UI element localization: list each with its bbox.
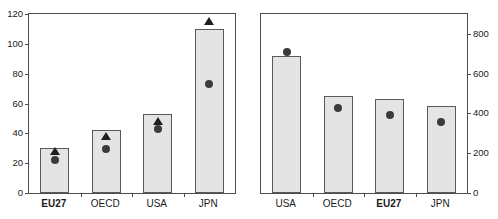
x-axis-category-label: USA bbox=[146, 198, 167, 209]
x-axis-category-label: USA bbox=[275, 198, 296, 209]
y-axis-tick-label: 60 bbox=[12, 99, 23, 109]
x-axis-category-label: OECD bbox=[91, 198, 120, 209]
circle-marker bbox=[437, 118, 445, 126]
y-axis-tick bbox=[467, 153, 471, 154]
bar bbox=[272, 56, 301, 193]
y-axis-tick-label: 0 bbox=[473, 188, 478, 198]
x-axis-tick bbox=[364, 193, 365, 197]
y-axis-tick-label: 40 bbox=[12, 129, 23, 139]
y-axis-tick-label: 800 bbox=[473, 29, 489, 39]
circle-marker bbox=[154, 125, 162, 133]
figure: Triadic patents Per million population 2… bbox=[0, 0, 498, 219]
y-axis-tick bbox=[25, 14, 29, 15]
y-axis-tick bbox=[25, 163, 29, 164]
circle-marker bbox=[386, 111, 394, 119]
chart-panel-scientific-articles: Scientific articles Per million populati… bbox=[249, 0, 498, 219]
y-axis-tick bbox=[25, 44, 29, 45]
y-axis-tick bbox=[467, 113, 471, 114]
x-axis-tick bbox=[416, 193, 417, 197]
plot-area-right: 0200400600800 bbox=[260, 13, 468, 194]
bar bbox=[195, 29, 224, 193]
x-axis-tick bbox=[184, 193, 185, 197]
circle-marker bbox=[283, 48, 291, 56]
circle-marker bbox=[102, 145, 110, 153]
y-axis-tick-label: 20 bbox=[12, 158, 23, 168]
plot-area-left: 020406080100120 bbox=[28, 13, 236, 194]
triangle-marker bbox=[101, 132, 111, 140]
triangle-marker bbox=[153, 117, 163, 125]
y-axis-tick bbox=[467, 74, 471, 75]
y-axis-tick bbox=[25, 133, 29, 134]
x-axis-category-label: EU27 bbox=[41, 198, 66, 209]
x-axis-category-label: JPN bbox=[199, 198, 218, 209]
y-axis-tick bbox=[25, 74, 29, 75]
y-axis-tick bbox=[25, 193, 29, 194]
circle-marker bbox=[51, 156, 59, 164]
x-axis-category-label: EU27 bbox=[376, 198, 401, 209]
y-axis-tick bbox=[25, 104, 29, 105]
y-axis-tick-label: 100 bbox=[7, 39, 23, 49]
x-axis-category-label: JPN bbox=[431, 198, 450, 209]
y-axis-tick-label: 400 bbox=[473, 109, 489, 119]
triangle-marker bbox=[204, 17, 214, 25]
y-axis-tick bbox=[467, 193, 471, 194]
x-axis-tick bbox=[313, 193, 314, 197]
circle-marker bbox=[334, 104, 342, 112]
y-axis-tick-label: 200 bbox=[473, 148, 489, 158]
x-axis-tick bbox=[132, 193, 133, 197]
y-axis-tick bbox=[467, 34, 471, 35]
x-axis-tick bbox=[81, 193, 82, 197]
y-axis-tick-label: 80 bbox=[12, 69, 23, 79]
y-axis-tick-label: 0 bbox=[18, 188, 23, 198]
y-axis-tick-label: 600 bbox=[473, 69, 489, 79]
chart-panel-triadic-patents: Triadic patents Per million population 2… bbox=[0, 0, 249, 219]
x-axis-category-label: OECD bbox=[323, 198, 352, 209]
triangle-marker bbox=[50, 147, 60, 155]
circle-marker bbox=[205, 80, 213, 88]
y-axis-tick-label: 120 bbox=[7, 9, 23, 19]
